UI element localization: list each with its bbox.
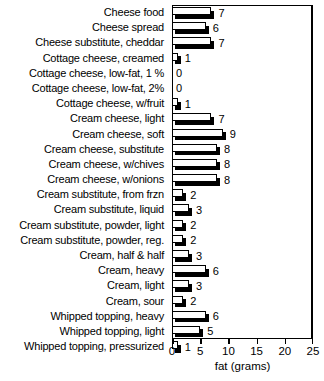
- category-label: Cream substitute, liquid: [0, 202, 168, 217]
- bar-face: [172, 22, 206, 30]
- bar-row: 3: [172, 278, 313, 293]
- bar-row: 3: [172, 248, 313, 263]
- bar-value-label: 1: [185, 51, 191, 66]
- category-label: Cream cheese, soft: [0, 127, 168, 142]
- bar-face: [172, 7, 211, 15]
- bar-face: [172, 113, 211, 121]
- category-label: Cream substitute, powder, reg.: [0, 233, 168, 248]
- x-axis: fat (grams) 0510152025: [172, 339, 313, 381]
- bar-row: 7: [172, 5, 313, 20]
- category-label: Cream, light: [0, 278, 168, 293]
- category-label: Whipped topping, pressurized: [0, 339, 168, 354]
- horizontal-bar-chart: Cheese foodCheese spreadCheese substitut…: [0, 0, 324, 381]
- bar-value-label: 1: [185, 97, 191, 112]
- category-label: Cream substitute, from frzn: [0, 187, 168, 202]
- bar-face: [172, 174, 217, 182]
- bar-face: [172, 53, 178, 61]
- category-label: Cream, heavy: [0, 263, 168, 278]
- x-axis-tick: [257, 339, 259, 344]
- bar-face: [172, 144, 217, 152]
- bar-value-label: 3: [196, 249, 202, 264]
- bar-face: [172, 311, 206, 319]
- bar-face: [172, 37, 211, 45]
- bar-row: 7: [172, 111, 313, 126]
- bar-face: [172, 296, 183, 304]
- bar-value-label: 3: [196, 203, 202, 218]
- bar-row: 9: [172, 127, 313, 142]
- bar-value-label: 5: [207, 324, 213, 339]
- bar-face: [172, 250, 189, 258]
- bar-value-label: 8: [224, 142, 230, 157]
- bar-row: 2: [172, 233, 313, 248]
- bar-value-label: 2: [190, 188, 196, 203]
- bar-face: [172, 265, 206, 273]
- bar-face: [172, 204, 189, 212]
- bar-row: 6: [172, 309, 313, 324]
- bar-value-label: 0: [176, 81, 182, 96]
- bar-value-label: 3: [196, 279, 202, 294]
- x-axis-tick: [228, 339, 230, 344]
- category-label: Cream cheese, light: [0, 111, 168, 126]
- bar-face: [172, 326, 200, 334]
- bar-value-label: 6: [213, 309, 219, 324]
- x-axis-tick: [312, 339, 314, 344]
- bar-face: [172, 129, 223, 137]
- bar-value-label: 0: [176, 66, 182, 81]
- bar-value-label: 2: [190, 233, 196, 248]
- x-axis-title: fat (grams): [172, 360, 313, 372]
- category-label: Cheese spread: [0, 20, 168, 35]
- category-label: Whipped topping, light: [0, 324, 168, 339]
- bar-value-label: 2: [190, 218, 196, 233]
- bar-value-label: 6: [213, 21, 219, 36]
- bar-row: 8: [172, 142, 313, 157]
- category-label: Cream cheese, w/chives: [0, 157, 168, 172]
- category-label: Cottage cheese, low-fat, 2%: [0, 81, 168, 96]
- bar-value-label: 8: [224, 173, 230, 188]
- x-axis-tick: [200, 339, 202, 344]
- x-axis-tick-label: 15: [250, 345, 263, 358]
- category-label-column: Cheese foodCheese spreadCheese substitut…: [0, 5, 168, 354]
- category-label: Cheese food: [0, 5, 168, 20]
- bar-row: 3: [172, 202, 313, 217]
- category-label: Cream, sour: [0, 294, 168, 309]
- x-axis-tick-label: 10: [222, 345, 235, 358]
- x-axis-tick-label: 20: [278, 345, 291, 358]
- bar-row: 6: [172, 20, 313, 35]
- x-axis-tick-label: 5: [197, 345, 203, 358]
- bar-row: 6: [172, 263, 313, 278]
- bar-row: 2: [172, 218, 313, 233]
- category-label: Cream substitute, powder, light: [0, 218, 168, 233]
- category-label: Cottage cheese, w/fruit: [0, 96, 168, 111]
- category-label: Cottage cheese, creamed: [0, 51, 168, 66]
- bar-row: 1: [172, 51, 313, 66]
- bar-row: 2: [172, 294, 313, 309]
- bar-row: 1: [172, 96, 313, 111]
- category-label: Cheese substitute, cheddar: [0, 35, 168, 50]
- x-axis-tick: [285, 339, 287, 344]
- bar-row: 8: [172, 157, 313, 172]
- bar-face: [172, 98, 178, 106]
- bars-layer: 76710017988823223632651: [172, 5, 313, 339]
- bar-row: 5: [172, 324, 313, 339]
- x-axis-tick-label: 25: [307, 345, 320, 358]
- bar-face: [172, 159, 217, 167]
- bar-row: 0: [172, 66, 313, 81]
- category-label: Cream cheese, w/onions: [0, 172, 168, 187]
- bar-row: 7: [172, 35, 313, 50]
- category-label: Whipped topping, heavy: [0, 309, 168, 324]
- category-label: Cream, half & half: [0, 248, 168, 263]
- bar-face: [172, 235, 183, 243]
- x-axis-tick-label: 0: [169, 345, 175, 358]
- bar-value-label: 7: [218, 112, 224, 127]
- bar-value-label: 7: [218, 36, 224, 51]
- bar-row: 0: [172, 81, 313, 96]
- bar-face: [172, 220, 183, 228]
- bar-value-label: 2: [190, 294, 196, 309]
- bar-face: [172, 280, 189, 288]
- bar-value-label: 7: [218, 6, 224, 21]
- bar-face: [172, 189, 183, 197]
- bar-value-label: 8: [224, 157, 230, 172]
- category-label: Cottage cheese, low-fat, 1 %: [0, 66, 168, 81]
- category-label: Cream cheese, substitute: [0, 142, 168, 157]
- bar-value-label: 9: [230, 127, 236, 142]
